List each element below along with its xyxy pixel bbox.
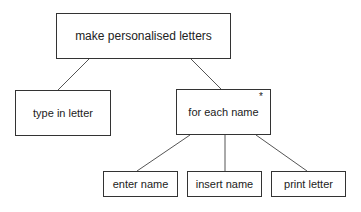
node-enter-name: enter name — [103, 171, 178, 197]
edge-loop-enter — [137, 135, 190, 171]
edge-loop-print — [256, 135, 307, 171]
node-for-each-name: for each name — [176, 89, 271, 135]
node-make-personalised-letters: make personalised letters — [56, 13, 231, 59]
node-label: for each name — [188, 106, 258, 118]
node-label: enter name — [113, 178, 169, 190]
node-label: print letter — [284, 178, 333, 190]
node-print-letter: print letter — [271, 171, 346, 197]
node-label: make personalised letters — [75, 29, 212, 43]
node-label: insert name — [196, 178, 253, 190]
node-label: type in letter — [33, 107, 93, 119]
edge-root-type — [58, 59, 89, 90]
edge-root-loop — [191, 59, 221, 89]
node-insert-name: insert name — [187, 171, 262, 197]
node-type-in-letter: type in letter — [15, 90, 111, 136]
iteration-marker-icon: * — [259, 92, 263, 102]
